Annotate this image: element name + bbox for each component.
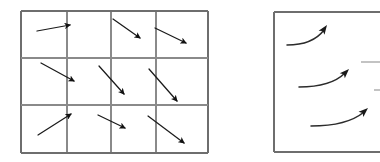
arrow-r2c3 bbox=[149, 69, 177, 101]
arrow-r1c3 bbox=[113, 19, 140, 38]
streamline-bottom bbox=[311, 108, 368, 126]
streamline-middle-curve bbox=[299, 73, 345, 87]
streamline-bottom-curve bbox=[311, 112, 364, 126]
arrow-r2c3-shaft bbox=[149, 69, 177, 101]
figure-canvas bbox=[0, 0, 380, 162]
arrow-r3c1-shaft bbox=[38, 114, 71, 135]
arrow-r1c4 bbox=[155, 28, 186, 43]
arrow-r1c1 bbox=[37, 25, 70, 31]
discrete-vector-field-grid bbox=[21, 11, 208, 153]
arrow-r3c3-shaft bbox=[148, 116, 184, 143]
streamline-top-arrowhead bbox=[319, 25, 327, 35]
arrow-r1c4-shaft bbox=[155, 28, 186, 43]
arrow-r3c3 bbox=[148, 116, 184, 143]
arrow-r3c1 bbox=[38, 114, 71, 135]
arrow-r1c3-shaft bbox=[113, 19, 140, 38]
streamline-middle bbox=[299, 69, 349, 87]
arrow-r1c1-shaft bbox=[37, 25, 70, 31]
figure-root bbox=[0, 0, 380, 162]
streamline-top bbox=[287, 25, 327, 45]
streamline-top-curve bbox=[287, 30, 324, 45]
arrow-r2c1 bbox=[41, 63, 74, 81]
continuous-streamline-panel bbox=[274, 12, 380, 152]
arrow-r2c1-shaft bbox=[41, 63, 74, 81]
